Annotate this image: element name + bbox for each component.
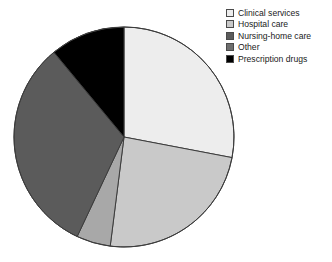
legend-swatch-prescription-drugs [226, 55, 234, 63]
legend-swatch-clinical-services [226, 9, 234, 17]
pie-chart-plot-area [0, 0, 240, 256]
legend-item[interactable]: Nursing-home care [226, 30, 311, 41]
legend-item-label: Hospital care [238, 19, 288, 29]
pie-slice-group [14, 27, 234, 247]
chart-legend: Clinical services Hospital care Nursing-… [226, 7, 311, 65]
legend-item-label: Nursing-home care [238, 31, 311, 41]
legend-item[interactable]: Prescription drugs [226, 53, 311, 64]
legend-item[interactable]: Other [226, 42, 311, 53]
legend-item[interactable]: Hospital care [226, 19, 311, 30]
figure-caption [4, 255, 330, 262]
pie-chart-svg [0, 0, 240, 256]
legend-item-label: Clinical services [238, 8, 300, 18]
pie-chart-figure: Clinical services Hospital care Nursing-… [0, 0, 332, 262]
legend-item-label: Prescription drugs [238, 54, 307, 64]
legend-swatch-nursing-home-care [226, 32, 234, 40]
legend-item[interactable]: Clinical services [226, 7, 311, 18]
pie-slice[interactable] [124, 27, 234, 158]
legend-swatch-other [226, 43, 234, 51]
legend-swatch-hospital-care [226, 20, 234, 28]
legend-item-label: Other [238, 42, 260, 52]
